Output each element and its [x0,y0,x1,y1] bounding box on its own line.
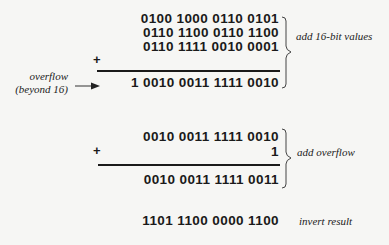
operand-3: 0110 1111 0010 0001 [120,40,279,54]
sum-rule [98,164,280,166]
right-brace-icon [281,16,295,90]
brace-label-add-16bit: add 16-bit values [296,30,372,43]
operand-1: 0010 0011 1111 0010 [120,130,279,144]
arrow-right-icon [75,82,102,90]
sum-result: 0010 0011 1111 0011 [120,173,279,187]
invert-label: invert result [299,215,352,228]
inverted-result: 1101 1100 0000 1100 [120,214,279,228]
right-brace-icon [281,128,295,190]
sum-result: 1 0010 0011 1111 0010 [100,76,279,90]
plus-operator: + [93,53,101,67]
operand-1: 0100 1000 0110 0101 [120,12,279,26]
plus-operator: + [93,144,101,158]
overflow-label-line2: (beyond 16) [4,83,68,96]
operand-2: 1 [120,145,279,159]
overflow-label-line1: overflow [4,70,68,83]
operand-2: 0110 1100 0110 1100 [120,26,279,40]
sum-rule [97,70,280,72]
brace-label-add-overflow: add overflow [297,146,355,159]
